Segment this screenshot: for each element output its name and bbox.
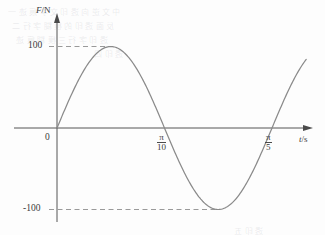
x-axis-unit: s bbox=[304, 134, 308, 144]
x-tick-pi10-denominator: 10 bbox=[157, 143, 166, 152]
x-tick-pi5-denominator: 5 bbox=[265, 143, 272, 152]
x-tick-label-pi-over-10: π 10 bbox=[157, 133, 166, 153]
x-tick-label-pi-over-5: π 5 bbox=[265, 133, 272, 153]
y-axis-unit: N bbox=[44, 5, 51, 15]
y-axis bbox=[54, 13, 60, 222]
plot-canvas bbox=[0, 0, 325, 235]
origin-label: 0 bbox=[45, 133, 50, 143]
x-axis-label: t/s bbox=[299, 135, 308, 144]
force-time-graph-figure: 中文逆向透印文字痕迹一 反面透印的模糊字行二 透印字行三模糊痕迹 透印四 透印五… bbox=[0, 0, 325, 235]
y-axis-label: F/N bbox=[36, 6, 51, 15]
y-tick-label-100: 100 bbox=[28, 41, 42, 51]
y-tick-label-negative-100: -100 bbox=[23, 204, 40, 214]
